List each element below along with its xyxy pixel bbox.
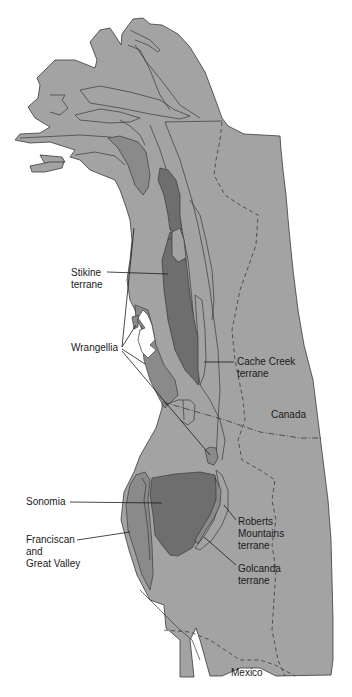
label-roberts-mountains-terrane: Roberts Mountains terrane: [238, 516, 284, 552]
label-golcanda-terrane: Golcanda terrane: [238, 563, 281, 587]
label-sonomia: Sonomia: [26, 496, 65, 508]
leader-franciscan: [77, 532, 130, 540]
label-mexico: Mexico: [231, 667, 263, 679]
terrane-map: [0, 0, 352, 697]
landmass: [15, 18, 333, 677]
label-stikine-terrane: Stikine terrane: [71, 267, 103, 291]
label-cache-creek-terrane: Cache Creek terrane: [237, 356, 295, 380]
island: [30, 162, 64, 172]
label-canada: Canada: [271, 409, 306, 421]
label-wrangellia: Wrangellia: [71, 342, 118, 354]
label-franciscan-great-valley: Franciscan and Great Valley: [26, 534, 80, 570]
